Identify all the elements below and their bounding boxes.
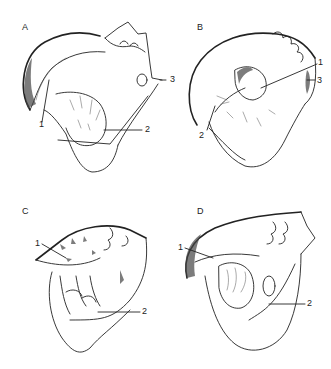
callout-label-a-2: 2 — [145, 124, 150, 134]
callout-lines-b — [165, 0, 331, 180]
callout-label-d-2: 2 — [307, 298, 312, 308]
anatomical-figure: A 1 2 3 B — [0, 0, 331, 369]
callout-lines-d — [165, 180, 331, 369]
callout-label-b-1: 1 — [318, 57, 323, 67]
panel-b: B 1 2 3 — [165, 0, 331, 180]
callout-label-d-1: 1 — [178, 242, 183, 252]
callout-lines-a — [0, 0, 165, 180]
callout-label-c-2: 2 — [142, 306, 147, 316]
callout-label-c-1: 1 — [35, 238, 40, 248]
callout-label-b-2: 2 — [199, 130, 204, 140]
callout-label-b-3: 3 — [317, 75, 322, 85]
panel-a: A 1 2 — [0, 0, 165, 180]
callout-lines-c — [0, 180, 165, 369]
panel-d: D 1 2 — [165, 180, 331, 369]
callout-label-a-1: 1 — [39, 119, 44, 129]
panel-c: C 1 2 — [0, 180, 165, 369]
